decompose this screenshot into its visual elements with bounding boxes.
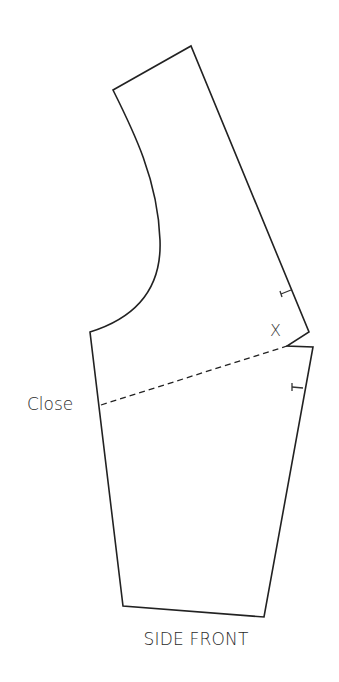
pattern-diagram <box>0 0 339 682</box>
dart-x-mark: X <box>270 321 281 340</box>
close-dashed-line <box>101 346 287 405</box>
close-label: Close <box>27 394 73 414</box>
notch-lower-icon <box>292 383 303 391</box>
notch-upper-icon <box>280 290 291 297</box>
diagram-title: SIDE FRONT <box>0 629 339 649</box>
